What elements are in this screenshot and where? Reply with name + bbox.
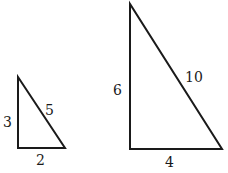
large-triangle-base-label: 4 [165,154,174,170]
small-triangle: 3 5 2 [3,77,65,168]
small-triangle-shape [18,77,65,148]
diagram-canvas: 3 5 2 6 10 4 [0,0,228,173]
large-triangle-hypotenuse-label: 10 [185,69,203,85]
small-triangle-hypotenuse-label: 5 [45,102,54,118]
large-triangle-vertical-label: 6 [113,82,122,98]
small-triangle-base-label: 2 [36,152,45,168]
small-triangle-vertical-label: 3 [3,114,12,130]
large-triangle-shape [130,4,222,149]
large-triangle: 6 10 4 [113,4,222,170]
